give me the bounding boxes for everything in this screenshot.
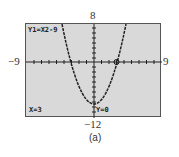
figure-caption: (a) [89,133,101,143]
equation-label: Y1=X2-9 [28,27,58,34]
y-max-label: 8 [90,10,96,21]
x-readout: X=3 [29,107,42,114]
y-min-label: −12 [84,119,101,130]
x-max-label: 9 [163,56,169,67]
calculator-screen: Y1=X2-9 X=3 Y=0 [25,23,161,117]
graph-plot [26,24,162,118]
y-readout: Y=0 [96,107,109,114]
x-min-label: −9 [8,56,20,67]
